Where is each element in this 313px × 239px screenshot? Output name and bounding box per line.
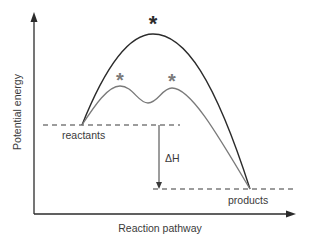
products-label: products [228,194,268,206]
delta-h-arrow [156,125,162,189]
arrow-down-icon [156,182,162,189]
delta-h-label: ΔH [165,152,180,164]
axes [31,12,297,218]
y-axis-arrow-icon [31,12,38,22]
energy-profile-diagram: * * * reactants products ΔH Reaction pat… [0,0,313,239]
transition-state-marker-catalysed-1: * [116,69,124,91]
transition-state-marker-uncatalysed: * [149,11,158,36]
reactants-label: reactants [62,129,105,141]
transition-state-marker-catalysed-2: * [168,70,176,92]
catalysed-curve [82,86,250,189]
x-axis-label: Reaction pathway [118,222,202,234]
x-axis-arrow-icon [286,211,296,218]
y-axis-label: Potential energy [11,73,23,150]
uncatalysed-curve [82,34,250,189]
